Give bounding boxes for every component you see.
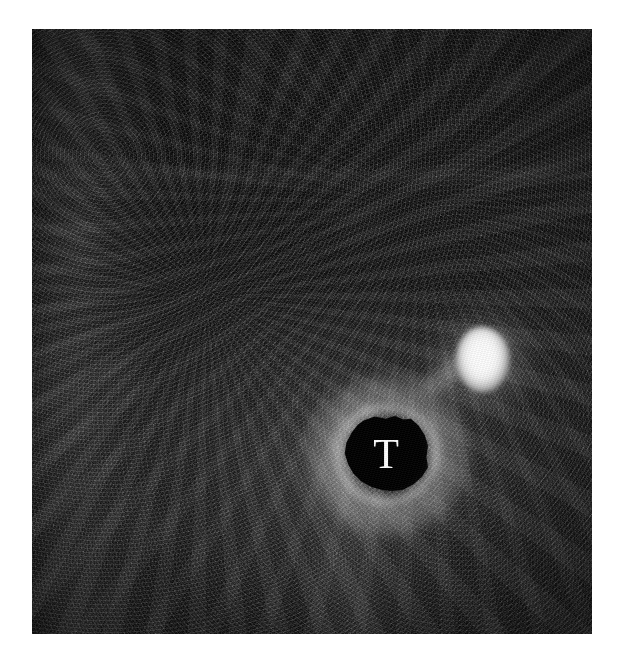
figure-root: T <box>0 0 622 660</box>
tumor-label-T: T <box>343 415 429 492</box>
medical-image-panel: T <box>32 29 592 634</box>
